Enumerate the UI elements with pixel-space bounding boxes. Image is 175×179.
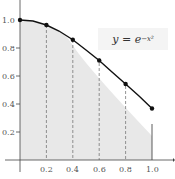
y-tick-marks (16, 48, 20, 132)
y-tick-label: 1.0 (2, 16, 15, 25)
equation-exponent: −x² (141, 35, 154, 43)
y-tick-label: 0.6 (2, 72, 15, 81)
y-tick-label: 0.8 (2, 44, 15, 53)
x-tick-label: 1.0 (146, 165, 159, 174)
x-tick-label: 0.4 (66, 165, 79, 174)
function-label: y = e−x² (98, 28, 168, 50)
chart-area: 1.0 0.8 0.6 0.4 0.2 0.2 0.4 0.6 0.8 1.0 (0, 0, 175, 179)
x-tick-label: 0.2 (40, 165, 53, 174)
x-axis-arrow-icon (173, 158, 175, 162)
x-tick-label: 0.8 (119, 165, 132, 174)
y-tick-label: 0.4 (2, 100, 15, 109)
equation-base: y = e (112, 33, 141, 46)
x-tick-label: 0.6 (93, 165, 106, 174)
y-tick-label: 0.2 (2, 128, 15, 137)
